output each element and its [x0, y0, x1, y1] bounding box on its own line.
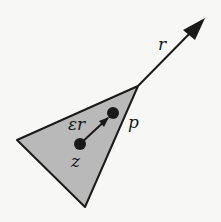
point-z-dot: [74, 138, 86, 150]
label-r: r: [158, 34, 167, 54]
cone-diagram: r εr p z: [0, 0, 221, 222]
label-z: z: [70, 151, 81, 171]
diagram-canvas: r εr p z: [0, 0, 221, 222]
point-p-dot: [107, 107, 119, 119]
label-er: εr: [68, 114, 86, 134]
label-p: p: [128, 112, 139, 132]
ray-r-line: [138, 27, 196, 86]
